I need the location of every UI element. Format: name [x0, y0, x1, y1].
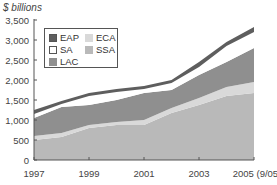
legend-swatch-sa	[49, 46, 57, 54]
legend-label-eap: EAP	[60, 32, 79, 43]
x-tick-label: 2005 (9/05)	[233, 168, 277, 179]
x-tick-label: 1999	[78, 168, 99, 179]
legend-swatch-ssa	[85, 46, 93, 54]
legend-label-sa: SA	[60, 44, 73, 55]
y-tick-label: 1,500	[5, 95, 29, 106]
legend-item-sa: SA	[49, 44, 73, 55]
y-tick-label: 500	[13, 135, 29, 146]
y-tick-label: 3,000	[5, 35, 29, 46]
legend-label-ssa: SSA	[96, 44, 115, 55]
legend-item-eca: ECA	[85, 32, 116, 43]
legend-label-eca: ECA	[96, 32, 116, 43]
y-tick-label: 3,500	[5, 15, 29, 26]
legend-swatch-lac	[49, 58, 57, 66]
y-tick-label: 2,500	[5, 55, 29, 66]
y-tick-label: 2,000	[5, 75, 29, 86]
legend-swatch-eca	[85, 34, 93, 42]
legend-item-lac: LAC	[49, 56, 78, 67]
legend-swatch-eap	[49, 34, 57, 42]
legend-label-lac: LAC	[60, 56, 78, 67]
x-tick-label: 2001	[133, 168, 154, 179]
y-axis-title: $ billions	[3, 2, 42, 13]
legend-item-ssa: SSA	[85, 44, 115, 55]
y-tick-label: 0	[24, 155, 29, 166]
stacked-area-chart: 05001,0001,5002,0002,5003,0003,500199719…	[0, 0, 277, 185]
y-tick-label: 1,000	[5, 115, 29, 126]
legend-item-eap: EAP	[49, 32, 79, 43]
x-tick-label: 1997	[23, 168, 44, 179]
legend: EAP SA LAC ECA SSA	[44, 28, 118, 68]
x-tick-label: 2003	[188, 168, 209, 179]
